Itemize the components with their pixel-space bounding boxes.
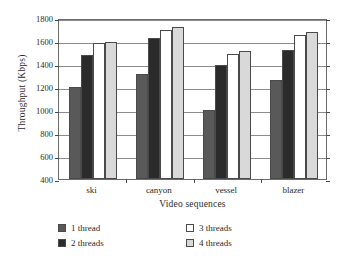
- chart-legend: 1 thread3 threads2 threads4 threads: [58, 220, 308, 250]
- bar: [294, 35, 306, 179]
- y-axis-tick: [326, 66, 330, 67]
- legend-item: 4 threads: [186, 238, 314, 248]
- x-axis-tick: [261, 179, 262, 183]
- legend-swatch-icon: [186, 224, 194, 232]
- legend-label: 1 thread: [71, 223, 100, 233]
- bar: [69, 87, 81, 179]
- y-axis-tick: [326, 181, 330, 182]
- y-axis-tick: [326, 135, 330, 136]
- bar: [136, 74, 148, 179]
- y-axis-tick-label: 600: [22, 152, 53, 162]
- y-axis-tick-label: 1200: [22, 83, 53, 93]
- y-axis-tick: [55, 158, 59, 159]
- bar: [160, 30, 172, 180]
- y-axis-tick: [55, 66, 59, 67]
- y-axis-tick: [55, 135, 59, 136]
- bar: [105, 42, 117, 179]
- legend-item: 1 thread: [58, 223, 186, 233]
- bar: [227, 54, 239, 179]
- y-axis-tick: [55, 181, 59, 182]
- x-axis-tick: [126, 179, 127, 183]
- y-axis-tick-label: 1400: [22, 60, 53, 70]
- legend-swatch-icon: [58, 224, 66, 232]
- legend-item: 3 threads: [186, 223, 314, 233]
- bar: [148, 38, 160, 179]
- x-axis-tick: [194, 179, 195, 183]
- bar-chart-figure: Throughput (Kbps) 4006008001000120014001…: [0, 0, 344, 258]
- x-axis-title: Video sequences: [58, 199, 327, 209]
- y-axis-tick: [326, 43, 330, 44]
- legend-item: 2 threads: [58, 238, 186, 248]
- y-axis-tick: [55, 112, 59, 113]
- bar: [282, 50, 294, 179]
- bar: [239, 51, 251, 179]
- x-axis-tick-label: blazer: [282, 185, 304, 195]
- y-axis-tick-label: 800: [22, 129, 53, 139]
- plot-area: [58, 19, 327, 180]
- legend-label: 3 threads: [199, 223, 232, 233]
- bar: [203, 110, 215, 179]
- bar: [306, 32, 318, 179]
- y-axis-tick: [55, 20, 59, 21]
- legend-label: 4 threads: [199, 238, 232, 248]
- bar: [215, 65, 227, 179]
- y-axis-tick: [326, 112, 330, 113]
- legend-swatch-icon: [186, 239, 194, 247]
- y-axis-tick-labels: 40060080010001200140016001800: [22, 0, 53, 258]
- legend-swatch-icon: [58, 239, 66, 247]
- y-axis-tick: [55, 89, 59, 90]
- bar: [93, 43, 105, 179]
- x-axis-tick-label: ski: [86, 185, 97, 195]
- y-axis-tick: [55, 43, 59, 44]
- legend-label: 2 threads: [71, 238, 104, 248]
- bar: [172, 27, 184, 179]
- y-axis-tick-label: 1000: [22, 106, 53, 116]
- bar: [81, 55, 93, 179]
- x-axis-tick-label: canyon: [146, 185, 172, 195]
- x-axis-tick-label: vessel: [215, 185, 237, 195]
- bar: [270, 80, 282, 179]
- y-axis-tick-label: 1800: [22, 14, 53, 24]
- y-axis-tick-label: 400: [22, 175, 53, 185]
- y-axis-tick-label: 1600: [22, 37, 53, 47]
- y-axis-tick: [326, 158, 330, 159]
- y-axis-tick: [326, 20, 330, 21]
- gridline: [59, 20, 326, 21]
- y-axis-tick: [326, 89, 330, 90]
